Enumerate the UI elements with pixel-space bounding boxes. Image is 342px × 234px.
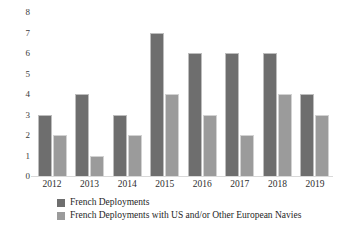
y-axis-tick: 4 — [14, 90, 30, 99]
x-axis-tick: 2017 — [225, 178, 255, 192]
bar[interactable] — [263, 53, 277, 176]
x-axis-tick: 2013 — [75, 178, 105, 192]
bar-group — [75, 12, 105, 176]
legend-swatch-icon — [57, 199, 65, 207]
legend-item[interactable]: French Deployments — [57, 196, 342, 209]
bar[interactable] — [128, 135, 142, 176]
bar[interactable] — [315, 115, 329, 177]
bar-groups — [31, 12, 336, 176]
y-axis-tick: 0 — [14, 172, 30, 181]
legend-swatch-icon — [57, 212, 65, 220]
x-axis: 20122013201420152016201720182019 — [31, 178, 336, 192]
bar[interactable] — [188, 53, 202, 176]
bar-group — [187, 12, 217, 176]
legend-label: French Deployments — [70, 197, 149, 208]
bar[interactable] — [278, 94, 292, 176]
bar-group — [262, 12, 292, 176]
y-axis-tick: 5 — [14, 69, 30, 78]
y-axis: 012345678 — [14, 12, 30, 176]
bar-group — [112, 12, 142, 176]
bar[interactable] — [75, 94, 89, 176]
bar[interactable] — [53, 135, 67, 176]
bar-group — [37, 12, 67, 176]
bar[interactable] — [165, 94, 179, 176]
y-axis-tick: 7 — [14, 28, 30, 37]
legend-item[interactable]: French Deployments with US and/or Other … — [57, 209, 342, 222]
x-axis-tick: 2018 — [262, 178, 292, 192]
y-axis-tick: 2 — [14, 131, 30, 140]
y-axis-tick: 8 — [14, 8, 30, 17]
x-axis-tick: 2012 — [37, 178, 67, 192]
plot-area: 012345678 201220132014201520162017201820… — [0, 0, 342, 190]
bar-group — [150, 12, 180, 176]
legend: French DeploymentsFrench Deployments wit… — [57, 196, 342, 222]
bar[interactable] — [150, 33, 164, 177]
bar[interactable] — [113, 115, 127, 177]
bar[interactable] — [38, 115, 52, 177]
x-axis-tick: 2016 — [187, 178, 217, 192]
bar[interactable] — [90, 156, 104, 177]
y-axis-tick: 3 — [14, 110, 30, 119]
bar[interactable] — [240, 135, 254, 176]
x-axis-tick: 2014 — [112, 178, 142, 192]
y-axis-tick: 1 — [14, 151, 30, 160]
bar[interactable] — [203, 115, 217, 177]
bar-group — [225, 12, 255, 176]
bars-container — [31, 12, 336, 176]
bar[interactable] — [300, 94, 314, 176]
bar[interactable] — [225, 53, 239, 176]
y-axis-tick: 6 — [14, 49, 30, 58]
legend-label: French Deployments with US and/or Other … — [70, 210, 301, 221]
bar-chart: 012345678 201220132014201520162017201820… — [0, 0, 342, 234]
bar-group — [300, 12, 330, 176]
x-axis-tick: 2019 — [300, 178, 330, 192]
axis-baseline — [31, 176, 333, 177]
x-axis-tick: 2015 — [150, 178, 180, 192]
